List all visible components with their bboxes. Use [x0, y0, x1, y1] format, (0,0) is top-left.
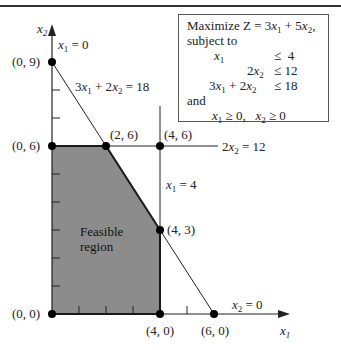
constraint-1-rhs: ≤ 4 [274, 49, 294, 63]
point-label-0-9: (0, 9) [12, 55, 40, 69]
label-2x2-eq-12: 2x2 = 12 [222, 140, 266, 154]
constraint-1: x1 [214, 49, 224, 63]
point-label-4-0: (4, 0) [146, 324, 174, 338]
feasible-region-label: Feasible region [80, 224, 123, 254]
point-label-2-6: (2, 6) [110, 128, 138, 142]
label-3x1-2x2-18: 3x1 + 2x2 = 18 [75, 80, 149, 94]
point-label-0-0: (0, 0) [12, 307, 40, 321]
and-label: and [187, 94, 206, 108]
x1-axis-label: x1 [280, 324, 290, 338]
point-label-0-6: (0, 6) [12, 139, 40, 153]
point-label-4-3: (4, 3) [167, 223, 195, 237]
point-label-4-6: (4, 6) [164, 128, 192, 142]
x2-axis-label: x2 [37, 22, 47, 36]
constraint-3-rhs: ≤ 18 [274, 79, 297, 93]
nonnegativity-constraints: x1 ≥ 0, x2 ≥ 0 [212, 109, 286, 123]
x2-axis-arrow-icon [48, 24, 56, 36]
problem-statement-box: Maximize Z = 3x1 + 5x2, subject to x1 ≤ … [178, 14, 329, 122]
constraint-3: 3x1 + 2x2 [209, 79, 256, 93]
point-label-6-0: (6, 0) [201, 324, 229, 338]
label-x1-eq-4: x1 = 4 [166, 178, 197, 192]
x1-axis-arrow-icon [278, 310, 290, 318]
constraint-2: 2x2 [247, 64, 264, 78]
objective-function: Maximize Z = 3x1 + 5x2, [187, 19, 315, 33]
constraint-2-rhs: ≤ 12 [274, 64, 297, 78]
label-x2-eq-0: x2 = 0 [232, 298, 263, 312]
label-x1-eq-0: x1 = 0 [58, 38, 89, 52]
subject-to-label: subject to [187, 34, 237, 48]
